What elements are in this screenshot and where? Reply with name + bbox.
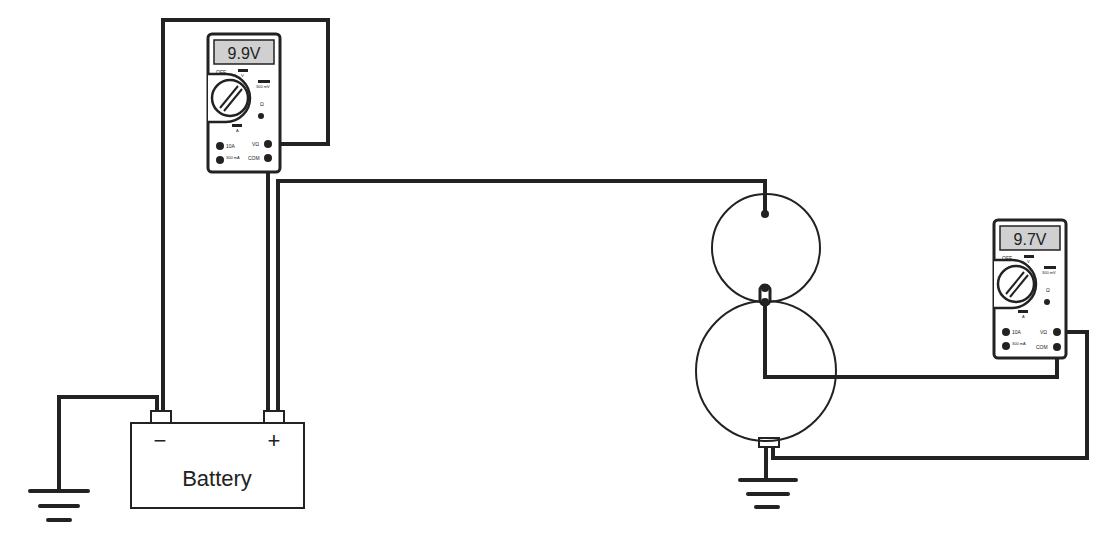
wire-batt-neg-to-ground — [59, 397, 157, 490]
jack-com[interactable] — [264, 154, 272, 162]
battery: − + Battery — [131, 411, 304, 508]
svg-text:VΩ: VΩ — [1040, 329, 1047, 335]
jack-vohm[interactable] — [1053, 328, 1061, 336]
svg-text:300 mV: 300 mV — [256, 84, 270, 89]
svg-text:300 mA: 300 mA — [1012, 341, 1026, 346]
meter-reading: 9.9V — [228, 45, 261, 62]
svg-text:10A: 10A — [226, 143, 236, 149]
jack-vohm[interactable] — [264, 140, 272, 148]
battery-label: Battery — [182, 466, 252, 491]
connector-link — [760, 284, 770, 306]
battery-neg-symbol: − — [154, 428, 167, 453]
jack-10a[interactable] — [1002, 328, 1010, 336]
meter-dial[interactable] — [998, 266, 1034, 302]
svg-text:COM: COM — [1036, 344, 1048, 350]
svg-text:300 mV: 300 mV — [1042, 270, 1056, 275]
battery-pos-terminal — [264, 411, 284, 423]
svg-text:A: A — [236, 128, 239, 133]
jack-10a[interactable] — [216, 142, 224, 150]
svg-text:300 mA: 300 mA — [226, 155, 240, 160]
meter-reading: 9.7V — [1014, 231, 1047, 248]
svg-text:COM: COM — [248, 155, 260, 161]
svg-text:VΩ: VΩ — [252, 141, 259, 147]
multimeter-left: 9.9V OFF V 300 mV Ω A 10A 300 mA VΩ COM — [208, 34, 280, 172]
svg-text:V: V — [1027, 259, 1030, 264]
ground-icon — [30, 491, 88, 520]
wire-batt-pos-to-solenoid — [278, 181, 765, 412]
jack-300ma[interactable] — [216, 156, 224, 164]
battery-neg-terminal — [151, 411, 171, 423]
svg-text:A: A — [1022, 314, 1025, 319]
battery-pos-symbol: + — [268, 428, 281, 453]
svg-text:Ω: Ω — [1046, 287, 1050, 293]
jack-300ma[interactable] — [1002, 342, 1010, 350]
circuit-diagram: − + Battery 9.9V OFF V 300 mV Ω — [0, 0, 1114, 547]
meter-dial[interactable] — [212, 80, 248, 116]
svg-text:V: V — [241, 73, 244, 78]
multimeter-right: 9.7V OFF V 300 mV Ω A 10A 300 mA VΩ COM — [994, 220, 1066, 358]
ground-icon — [740, 480, 796, 507]
svg-text:10A: 10A — [1012, 329, 1022, 335]
svg-text:Ω: Ω — [260, 101, 264, 107]
jack-com[interactable] — [1053, 343, 1061, 351]
